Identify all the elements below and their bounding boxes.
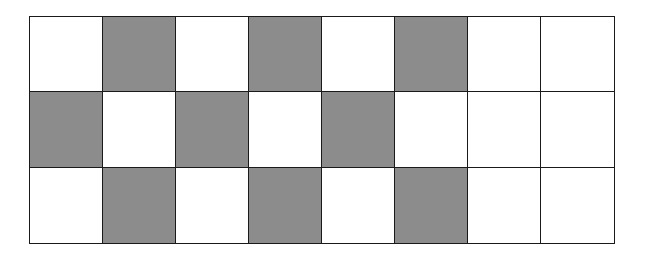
- grid-cell-empty: [30, 168, 103, 243]
- grid-cell-shaded: [249, 168, 322, 243]
- grid-cell-shaded: [30, 92, 103, 167]
- grid-cell-empty: [30, 17, 103, 92]
- grid-cell-empty: [468, 17, 541, 92]
- grid-cell-empty: [176, 17, 249, 92]
- grid-cell-empty: [322, 168, 395, 243]
- grid-cell-empty: [249, 92, 322, 167]
- grid-cell-empty: [541, 17, 614, 92]
- grid-cell-empty: [103, 92, 176, 167]
- grid-cell-empty: [468, 92, 541, 167]
- grid-cell-empty: [541, 92, 614, 167]
- grid-cell-empty: [176, 168, 249, 243]
- grid-cell-shaded: [103, 17, 176, 92]
- grid-cell-shaded: [103, 168, 176, 243]
- grid-cell-empty: [395, 92, 468, 167]
- grid-cell-empty: [541, 168, 614, 243]
- grid-cell-empty: [322, 17, 395, 92]
- shaded-grid-diagram: [29, 16, 615, 244]
- grid-cell-shaded: [322, 92, 395, 167]
- grid-cell-shaded: [395, 168, 468, 243]
- grid-cell-shaded: [249, 17, 322, 92]
- grid-cell-empty: [468, 168, 541, 243]
- grid-cell-shaded: [395, 17, 468, 92]
- grid-cell-shaded: [176, 92, 249, 167]
